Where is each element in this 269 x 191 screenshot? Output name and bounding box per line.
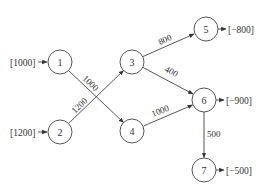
node-7: 7 <box>192 158 216 182</box>
supply-node-2: [1200] <box>10 128 47 138</box>
node-label-5: 5 <box>204 24 209 35</box>
node-3: 3 <box>120 50 144 74</box>
demand-label-node-5: [−800] <box>228 25 254 35</box>
edge-label-4-6: 1000 <box>150 103 171 119</box>
supply-label-node-1: [1000] <box>10 58 35 68</box>
node-4: 4 <box>120 119 144 143</box>
node-5: 5 <box>194 17 218 41</box>
node-2: 2 <box>48 120 72 144</box>
node-1: 1 <box>48 50 72 74</box>
supply-node-1: [1000] <box>10 58 47 68</box>
edge-3-5: 800 <box>143 32 194 57</box>
supply-label-node-2: [1200] <box>10 128 35 138</box>
demand-node-5: [−800] <box>218 25 254 35</box>
edge-3-6: 400 <box>143 64 193 94</box>
node-label-2: 2 <box>58 127 63 138</box>
node-label-7: 7 <box>202 165 207 176</box>
node-label-3: 3 <box>130 57 135 68</box>
demand-label-node-6: [−900] <box>226 96 252 106</box>
node-label-1: 1 <box>58 57 63 68</box>
demand-node-6: [−900] <box>216 96 252 106</box>
node-label-6: 6 <box>202 95 207 106</box>
edge-label-3-6: 400 <box>163 64 180 79</box>
edge-label-1-4: 1000 <box>81 73 101 93</box>
node-label-4: 4 <box>130 126 135 137</box>
network-flow-diagram: [1000] [1200] 1000 1200 800 400 1000 500… <box>0 0 269 191</box>
edge-6-7: 500 <box>204 112 221 158</box>
edge-label-6-7: 500 <box>207 129 221 139</box>
edge-4-6: 1000 <box>144 103 193 126</box>
demand-label-node-7: [−500] <box>226 166 252 176</box>
demand-node-7: [−500] <box>216 166 252 176</box>
node-6: 6 <box>192 88 216 112</box>
